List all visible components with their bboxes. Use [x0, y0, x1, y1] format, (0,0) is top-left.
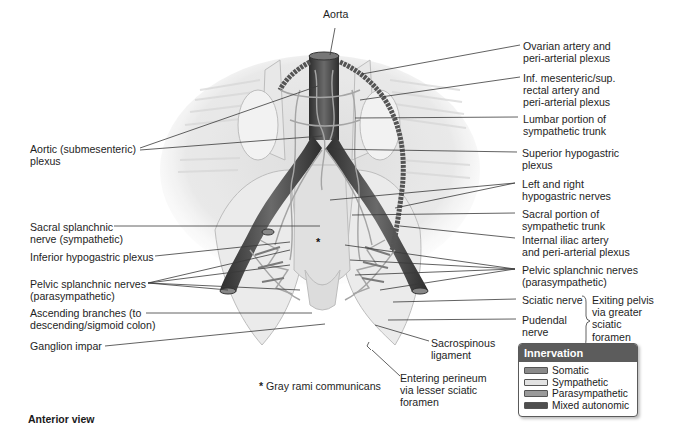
label-inferior-hypogastric-plexus: Inferior hypogastric plexus — [30, 251, 154, 263]
legend-item-parasympathetic: Parasympathetic — [519, 388, 637, 400]
label-exiting-pelvis: Exiting pelvisvia greatersciaticforamen — [592, 294, 654, 343]
label-ovarian-artery: Ovarian artery andperi-arterial plexus — [523, 40, 611, 64]
label-pudendal-nerve: Pudendalnerve — [522, 314, 567, 338]
parasympathetic-swatch-icon — [524, 390, 548, 397]
label-pelvic-splanchnic-right: Pelvic splanchnic nerves(parasympathetic… — [522, 264, 638, 288]
view-label: Anterior view — [28, 413, 95, 425]
label-ganglion-impar: Ganglion impar — [30, 340, 102, 352]
label-inf-mesenteric-artery: Inf. mesenteric/sup.rectal artery andper… — [523, 72, 615, 109]
label-lumbar-sympathetic-trunk: Lumbar portion ofsympathetic trunk — [523, 113, 606, 137]
innervation-legend: Innervation Somatic Sympathetic Parasymp… — [518, 343, 638, 417]
label-pelvic-splanchnic-left: Pelvic splanchnic nerves(parasympathetic… — [30, 278, 146, 302]
legend-item-sympathetic: Sympathetic — [519, 377, 637, 389]
label-superior-hypogastric-plexus: Superior hypogastricplexus — [522, 147, 619, 171]
legend-title: Innervation — [519, 344, 637, 362]
label-hypogastric-nerves: Left and righthypogastric nerves — [522, 178, 611, 202]
label-sacral-splanchnic-nerve: Sacral splanchnicnerve (sympathetic) — [30, 221, 123, 245]
label-ascending-branches: Ascending branches (todescending/sigmoid… — [30, 307, 155, 331]
anatomy-figure: * — [0, 0, 676, 438]
mixed-autonomic-swatch-icon — [524, 402, 548, 409]
label-sciatic-nerve: Sciatic nerve — [522, 294, 583, 306]
label-sacrospinous-ligament: Sacrospinousligament — [431, 337, 495, 361]
footnote-gray-rami: * Gray rami communicans — [259, 380, 381, 392]
label-entering-perineum: Entering perineumvia lesser sciaticforam… — [400, 372, 487, 409]
label-internal-iliac-artery: Internal iliac arteryand peri-arterial p… — [522, 234, 630, 258]
gray-rami-star-marker: * — [316, 236, 321, 248]
label-aorta: Aorta — [323, 8, 348, 20]
somatic-swatch-icon — [524, 367, 548, 374]
label-sacral-sympathetic-trunk: Sacral portion ofsympathetic trunk — [522, 208, 605, 232]
legend-item-somatic: Somatic — [519, 365, 637, 377]
sympathetic-swatch-icon — [524, 379, 548, 386]
label-aortic-plexus: Aortic (submesenteric)plexus — [30, 143, 136, 167]
legend-item-mixed-autonomic: Mixed autonomic — [519, 400, 637, 412]
